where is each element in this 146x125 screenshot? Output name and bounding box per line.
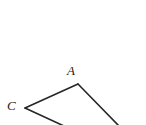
segment-c-a bbox=[25, 84, 78, 108]
segment-a-down-right bbox=[78, 84, 119, 125]
segment-c-down-right bbox=[25, 108, 64, 125]
vertex-label-a: A bbox=[67, 64, 75, 77]
vertex-label-c: C bbox=[7, 99, 16, 112]
geometry-figure-canvas: A C bbox=[0, 0, 146, 125]
